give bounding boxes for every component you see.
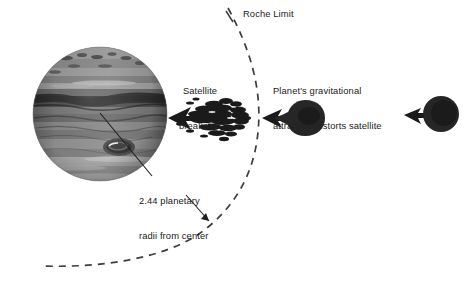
label-satellite-breaks-up-line2: breaks up (179, 120, 221, 132)
label-radii-line1: 2.44 planetary (139, 195, 208, 207)
roche-limit-leader-line (226, 11, 233, 22)
label-radii-line2: radii from center (139, 230, 208, 242)
label-planet-distorts-line2: attraction distorts satellite (273, 120, 382, 132)
label-planetary-radii: 2.44 planetary radii from center (139, 172, 208, 265)
label-planet-distorts-line1: Planet's gravitational (273, 85, 382, 97)
roche-limit-diagram: Roche Limit Satellite breaks up Planet's… (0, 0, 473, 281)
label-satellite-breaks-up-line1: Satellite (179, 85, 221, 97)
diagram-canvas (0, 0, 473, 281)
label-roche-limit: Roche Limit (243, 8, 294, 20)
spherical-satellite (404, 96, 459, 132)
label-satellite-breaks-up: Satellite breaks up (179, 62, 221, 155)
label-planet-gravitational-distortion: Planet's gravitational attraction distor… (273, 62, 382, 155)
